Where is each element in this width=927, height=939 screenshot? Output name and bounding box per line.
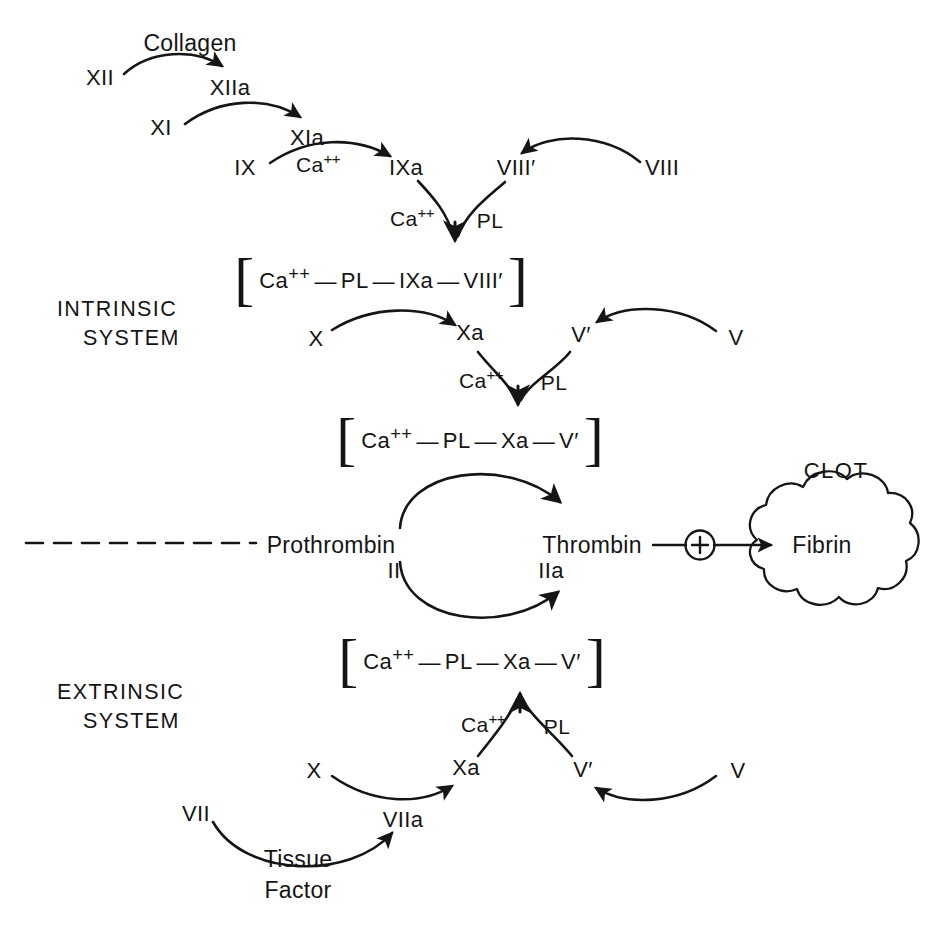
label-factor-x-intrinsic: X [309, 328, 324, 350]
complex-prothrombinase-extrinsic: [ Ca++—PL—Xa—V′ ] [338, 636, 605, 684]
label-factor-ixa: IXa [389, 157, 423, 179]
label-thrombin-numeral: IIa [538, 560, 563, 582]
bracket-right: ] [586, 636, 606, 684]
label-clot: CLOT [804, 460, 869, 482]
label-factor-x-extrinsic: X [307, 760, 322, 782]
label-pl-tenase: PL [477, 210, 503, 231]
section-intrinsic-system: INTRINSIC SYSTEM [57, 295, 180, 353]
arrow-x-to-xa-extrinsic [332, 776, 452, 799]
label-factor-vii: VII [182, 803, 210, 825]
section-intrinsic-line1: INTRINSIC [57, 295, 180, 324]
arrow-prothrombin-to-thrombin-lower [400, 562, 558, 618]
label-thrombin: Thrombin [542, 534, 642, 557]
label-factor-xii: XII [86, 67, 114, 89]
bracket-right: ] [584, 415, 604, 463]
arrow-prothrombin-to-thrombin-upper [400, 474, 560, 528]
label-factor-xa-intrinsic: Xa [456, 322, 484, 344]
label-tissue-factor-line1: Tissue [264, 844, 333, 875]
section-extrinsic-line1: EXTRINSIC [57, 678, 184, 707]
label-factor-v-intrinsic: V [729, 327, 744, 349]
complex-prothrombinase-content: Ca++—PL—Xa—V′ [361, 423, 578, 454]
arrow-v-to-v-prime-extrinsic [596, 776, 716, 800]
complex-tenase-content: Ca++—PL—IXa—VIII′ [259, 263, 502, 294]
bracket-right: ] [508, 255, 528, 303]
bracket-left: [ [234, 255, 254, 303]
label-factor-viii: VIII [645, 157, 679, 179]
label-factor-xiia: XIIa [210, 77, 250, 99]
label-factor-xa-extrinsic: Xa [452, 757, 480, 779]
label-factor-xi: XI [150, 117, 171, 139]
label-factor-viia: VIIa [383, 809, 423, 831]
section-extrinsic-line2: SYSTEM [57, 707, 184, 736]
label-fibrin: Fibrin [792, 534, 851, 557]
bracket-left: [ [336, 415, 356, 463]
label-factor-v-prime-extrinsic: V′ [573, 759, 592, 781]
complex-tenase: [ Ca++—PL—IXa—VIII′ ] [234, 255, 527, 303]
label-calcium-tenase: Ca++ [390, 205, 434, 229]
section-intrinsic-line2: SYSTEM [57, 324, 180, 353]
plus-glyph-icon [692, 537, 708, 553]
label-calcium-ix: Ca++ [296, 151, 340, 175]
cascade-arrows-layer [0, 0, 927, 939]
label-calcium-prothrombinase: Ca++ [459, 367, 503, 391]
arrow-xii-to-xiia [124, 54, 222, 74]
complex-prothrombinase-extrinsic-content: Ca++—PL—Xa—V′ [363, 644, 580, 675]
label-prothrombin-numeral: II [388, 560, 401, 582]
bracket-left: [ [338, 636, 358, 684]
label-factor-v-extrinsic: V [731, 760, 746, 782]
section-extrinsic-system: EXTRINSIC SYSTEM [57, 678, 184, 736]
coagulation-cascade-diagram: Collagen XII XIIa XI XIa IX IXa Ca++ VII… [0, 0, 927, 939]
label-tissue-factor: Tissue Factor [264, 844, 333, 906]
arrow-xi-to-xia [185, 103, 300, 124]
label-tissue-factor-line2: Factor [264, 875, 333, 906]
label-collagen: Collagen [143, 32, 236, 55]
label-factor-viii-prime: VIII′ [497, 157, 536, 179]
label-calcium-extrinsic: Ca++ [461, 711, 505, 735]
complex-prothrombinase-intrinsic: [ Ca++—PL—Xa—V′ ] [336, 415, 603, 463]
label-factor-ix: IX [234, 157, 255, 179]
label-pl-prothrombinase: PL [541, 372, 567, 393]
label-factor-xia: XIa [290, 127, 324, 149]
arrow-viii-to-viii-prime [522, 139, 640, 162]
arrow-v-to-v-prime-intrinsic [597, 309, 716, 331]
arrow-x-to-xa-intrinsic [332, 311, 455, 330]
label-prothrombin: Prothrombin [267, 534, 396, 557]
label-pl-extrinsic: PL [544, 716, 570, 737]
label-factor-v-prime-intrinsic: V′ [571, 324, 590, 346]
